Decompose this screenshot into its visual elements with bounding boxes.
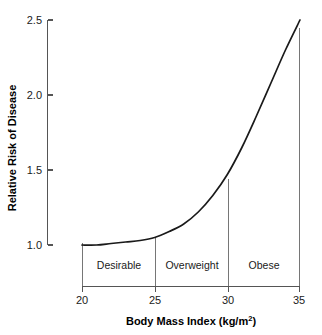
x-axis-title: Body Mass Index (kg/m2) — [126, 314, 256, 328]
y-tick-label-1.5: 1.5 — [27, 164, 42, 176]
y-tick-label-1.0: 1.0 — [27, 239, 42, 251]
x-tick-label-20: 20 — [76, 294, 88, 306]
x-tick-label-30: 30 — [222, 294, 234, 306]
x-axis-ticks — [83, 287, 300, 293]
x-axis-title-tail: ) — [252, 315, 256, 327]
y-tick-label-2.0: 2.0 — [27, 89, 42, 101]
x-axis-title-main: Body Mass Index (kg/m — [126, 315, 248, 327]
x-tick-label-25: 25 — [149, 294, 161, 306]
y-axis-title: Relative Risk of Disease — [6, 85, 18, 212]
category-dividers — [83, 28, 300, 286]
x-tick-label-35: 35 — [293, 294, 305, 306]
band-label-desirable: Desirable — [97, 259, 142, 271]
y-axis-ticks — [48, 20, 54, 245]
band-label-obese: Obese — [249, 259, 280, 271]
bmi-relative-risk-chart: 2.5 2.0 1.5 1.0 Relative Risk of Disease… — [0, 0, 322, 335]
y-tick-label-2.5: 2.5 — [27, 14, 42, 26]
band-label-overweight: Overweight — [165, 259, 218, 271]
relative-risk-curve — [82, 20, 300, 245]
chart-canvas: 2.5 2.0 1.5 1.0 Relative Risk of Disease… — [0, 0, 322, 335]
